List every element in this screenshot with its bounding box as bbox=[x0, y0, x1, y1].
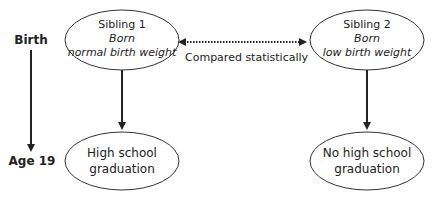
outcome1-text: High school graduation bbox=[65, 145, 179, 177]
sibling2-born: Born bbox=[310, 32, 424, 46]
sibling1-weight: normal birth weight bbox=[65, 46, 179, 60]
diagram-canvas: Birth Age 19 Sibling 1 Born normal birth… bbox=[0, 0, 439, 201]
outcome1-line2: graduation bbox=[65, 161, 179, 177]
sibling2-weight: low birth weight bbox=[310, 46, 424, 60]
outcome2-line1: No high school bbox=[310, 145, 424, 161]
sibling1-text: Sibling 1 Born normal birth weight bbox=[65, 18, 179, 60]
outcome2-text: No high school graduation bbox=[310, 145, 424, 177]
outcome1-line1: High school bbox=[65, 145, 179, 161]
sibling2-text: Sibling 2 Born low birth weight bbox=[310, 18, 424, 60]
outcome2-line2: graduation bbox=[310, 161, 424, 177]
timeline-end-label: Age 19 bbox=[0, 154, 64, 168]
sibling2-title: Sibling 2 bbox=[310, 18, 424, 32]
timeline-start-label: Birth bbox=[4, 33, 58, 47]
sibling1-born: Born bbox=[65, 32, 179, 46]
comparison-label: Compared statistically bbox=[185, 51, 305, 64]
sibling1-title: Sibling 1 bbox=[65, 18, 179, 32]
